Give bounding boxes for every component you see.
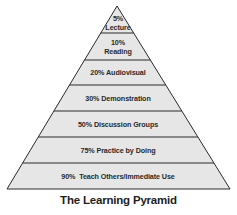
level-audiovisual: 20% Audiovisual <box>90 68 145 77</box>
level-label-name: Reading <box>104 47 132 56</box>
level-label-name: Lecture <box>105 23 130 32</box>
diagram-title: The Learning Pyramid <box>0 194 237 206</box>
level-discussion-groups: 50% Discussion Groups <box>78 120 158 129</box>
level-lecture: 5% Lecture <box>105 14 130 32</box>
level-label-percent: 5% <box>113 14 124 23</box>
level-demonstration: 30% Demonstration <box>85 94 150 103</box>
learning-pyramid: 5% Lecture 10% Reading 20% Audiovisual 3… <box>0 0 237 215</box>
level-teach-others: 90% Teach Others/Immediate Use <box>61 172 175 181</box>
level-practice-by-doing: 75% Practice by Doing <box>81 146 156 155</box>
level-label-percent: 10% <box>111 38 126 47</box>
